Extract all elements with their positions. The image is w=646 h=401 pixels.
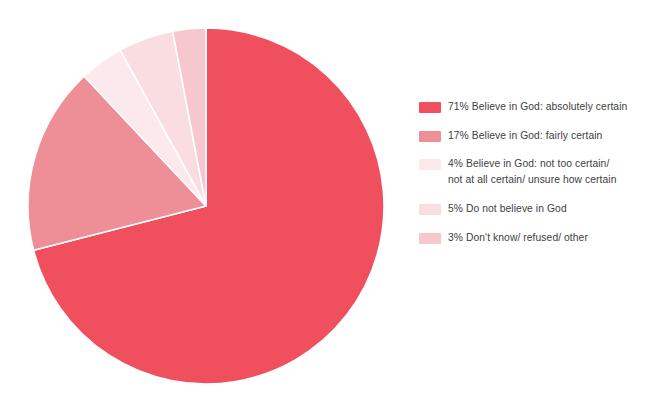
legend-item-dont-know[interactable]: 3% Don't know/ refused/ other [419, 230, 639, 246]
legend-item-do-not-believe[interactable]: 5% Do not believe in God [419, 201, 639, 217]
legend-item-label: 4% Believe in God: not too certain/ not … [448, 156, 616, 187]
pie-chart-figure: 71% Believe in God: absolutely certain17… [0, 0, 646, 401]
legend-swatch-icon [419, 159, 441, 170]
legend-swatch-icon [419, 102, 441, 113]
legend-swatch-icon [419, 233, 441, 244]
pie-chart: 71% Believe in God: absolutely certain17… [28, 28, 384, 384]
legend-item-label: 71% Believe in God: absolutely certain [448, 99, 627, 115]
legend-swatch-icon [419, 131, 441, 142]
legend-swatch-icon [419, 204, 441, 215]
pie-slice-group: 71% Believe in God: absolutely certain17… [28, 28, 384, 384]
legend-item-not-too-certain[interactable]: 4% Believe in God: not too certain/ not … [419, 156, 639, 187]
legend: 71% Believe in God: absolutely certain 1… [419, 99, 639, 258]
legend-item-absolutely-certain[interactable]: 71% Believe in God: absolutely certain [419, 99, 639, 115]
legend-item-label: 3% Don't know/ refused/ other [448, 230, 588, 246]
pie-svg: 71% Believe in God: absolutely certain17… [28, 28, 384, 384]
legend-item-label: 17% Believe in God: fairly certain [448, 128, 602, 144]
legend-item-label: 5% Do not believe in God [448, 201, 567, 217]
legend-item-fairly-certain[interactable]: 17% Believe in God: fairly certain [419, 128, 639, 144]
